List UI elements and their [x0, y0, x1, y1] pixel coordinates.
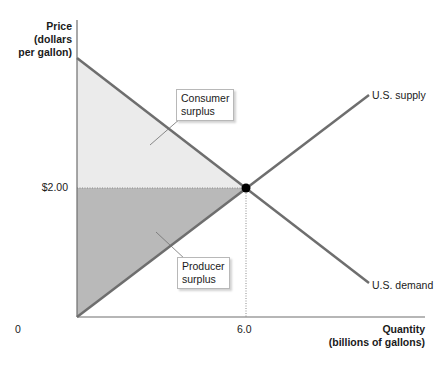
y-axis-label-line3: per gallon)	[0, 46, 72, 59]
demand-curve-label: U.S. demand	[372, 279, 433, 292]
consumer-surplus-label-line2: surplus	[181, 105, 229, 118]
y-axis-label-line1: Price	[14, 20, 72, 33]
consumer-surplus-callout: Consumer surplus	[176, 89, 234, 121]
x-axis-label-line1: Quantity	[300, 323, 425, 336]
equilibrium-point	[242, 184, 251, 193]
price-tick-label: $2.00	[20, 181, 68, 194]
producer-surplus-label-line1: Producer	[182, 260, 225, 273]
producer-surplus-callout: Producer surplus	[177, 257, 230, 289]
y-axis-label-line2: (dollars	[14, 33, 72, 46]
x-axis-label-line2: (billions of gallons)	[300, 336, 425, 349]
consumer-surplus-label-line1: Consumer	[181, 92, 229, 105]
supply-curve-label: U.S. supply	[372, 89, 426, 102]
quantity-tick-label: 6.0	[237, 323, 252, 336]
producer-surplus-label-line2: surplus	[182, 273, 225, 286]
origin-label: 0	[15, 323, 21, 336]
